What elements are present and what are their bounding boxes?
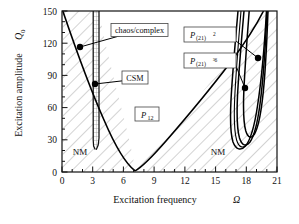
xlabel-18: 18: [242, 176, 252, 186]
annotation-p21p6[interactable]: P (21) ³6: [184, 53, 236, 68]
phase-diagram-figure: chaos/complex CSM P 12 P (21) 2 P (21) ³…: [0, 0, 299, 224]
xlabel-21: 21: [272, 176, 282, 186]
ylabel-90: 90: [48, 71, 58, 81]
annotation-chaos-complex-label: chaos/complex: [115, 26, 164, 35]
annotation-p21p6-label: P: [189, 56, 196, 66]
annotation-p21p6-superscript: ³6: [213, 57, 218, 63]
y-axis-title-subscript: 0: [19, 29, 26, 33]
x-axis-title-text: Excitation frequency: [113, 194, 197, 205]
annotation-p21sq-superscript: 2: [213, 31, 216, 37]
annotation-chaos-complex[interactable]: chaos/complex: [111, 24, 168, 37]
annotation-csm-label: CSM: [126, 74, 144, 83]
xlabel-0: 0: [60, 176, 65, 186]
annotation-p21p6-subscript: (21): [196, 61, 206, 68]
region-label-nm-right: NM: [211, 147, 226, 157]
csm-band: [93, 11, 99, 150]
annotation-p12-subscript: 12: [148, 115, 154, 121]
ylabel-0: 0: [52, 168, 57, 178]
xlabel-15: 15: [211, 176, 221, 186]
region-label-nm-left: NM: [73, 147, 88, 157]
annotation-csm[interactable]: CSM: [122, 71, 148, 84]
annotation-p12-label: P: [140, 110, 147, 120]
annotation-p12[interactable]: P 12: [135, 107, 159, 121]
ylabel-150: 150: [43, 7, 58, 17]
ylabel-30: 30: [48, 135, 58, 145]
xlabel-9: 9: [152, 176, 157, 186]
x-axis-title-symbol: Ω: [233, 194, 240, 205]
annotation-p21sq[interactable]: P (21) 2: [184, 27, 236, 42]
y-axis-title-text: Excitation amplitude: [13, 53, 24, 137]
plot-svg: chaos/complex CSM P 12 P (21) 2 P (21) ³…: [0, 0, 299, 224]
xlabel-12: 12: [180, 176, 190, 186]
csm-band-fill: [93, 11, 99, 149]
ylabel-60: 60: [48, 103, 58, 113]
xlabel-3: 3: [90, 176, 95, 186]
annotation-p21sq-label: P: [189, 30, 196, 40]
xlabel-6: 6: [121, 176, 126, 186]
annotation-p21sq-subscript: (21): [196, 35, 206, 42]
ylabel-120: 120: [43, 39, 58, 49]
